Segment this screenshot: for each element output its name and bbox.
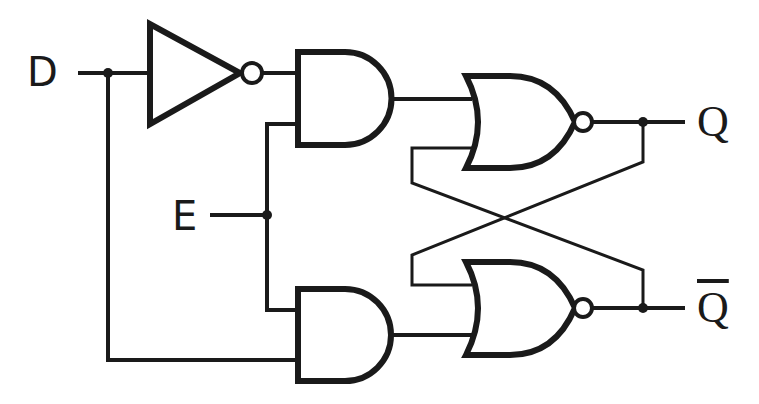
label-e: E	[172, 196, 197, 236]
not-gate-bubble	[242, 63, 262, 83]
junction-q	[638, 117, 648, 127]
junction-d	[103, 68, 113, 78]
not-gate	[150, 24, 240, 124]
label-q: Q	[697, 100, 729, 144]
nor-gate-top-bubble	[574, 113, 592, 131]
circuit-svg	[0, 0, 759, 404]
junction-e	[262, 210, 272, 220]
nor-gate-bottom-bubble	[574, 299, 592, 317]
junction-qbar	[638, 303, 648, 313]
label-q-bar: Q	[697, 286, 729, 330]
and-gate-top	[298, 52, 392, 145]
label-d: D	[27, 52, 58, 92]
nor-gate-bottom	[466, 262, 575, 355]
d-latch-diagram: D E Q Q	[0, 0, 759, 404]
wire-e-to-upper-and	[267, 124, 298, 310]
nor-gate-top	[466, 76, 575, 168]
and-gate-bottom	[298, 289, 391, 381]
wire-q-feedback	[412, 122, 643, 285]
